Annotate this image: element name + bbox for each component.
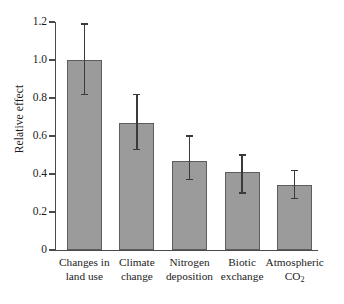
- y-tick-label: 0: [0, 244, 47, 256]
- y-tick-label: 0.4: [0, 168, 47, 180]
- error-bar-cap-upper: [291, 170, 298, 171]
- x-axis-category-label: AtmosphericCO2: [258, 256, 332, 284]
- error-bar-line: [136, 94, 137, 149]
- error-bar-line: [241, 155, 242, 193]
- x-axis-category-label-line: Nitrogen: [169, 256, 209, 268]
- error-bar-cap-upper: [186, 135, 193, 136]
- error-bar-cap-lower: [239, 192, 246, 193]
- y-tick-mark: [49, 211, 55, 212]
- y-tick-mark: [49, 21, 55, 22]
- error-bar-cap-lower: [133, 149, 140, 150]
- y-tick-label: 0.6: [0, 130, 47, 142]
- y-tick-mark: [49, 59, 55, 60]
- y-tick-mark: [49, 173, 55, 174]
- y-tick-mark: [49, 135, 55, 136]
- y-axis-line: [55, 22, 56, 251]
- y-tick-label: 0.2: [0, 206, 47, 218]
- error-bar-cap-lower: [81, 94, 88, 95]
- error-bar-cap-lower: [291, 198, 298, 199]
- error-bar-cap-upper: [81, 23, 88, 24]
- x-axis-line: [55, 250, 318, 251]
- x-axis-category-label-line: Biotic: [228, 256, 256, 268]
- y-tick-label: 0.8: [0, 92, 47, 104]
- error-bar-line: [84, 24, 85, 94]
- error-bar-cap-lower: [186, 179, 193, 180]
- y-tick-label: 1.0: [0, 54, 47, 66]
- bar-chart: Relative effect 1.21.00.80.60.40.20 Chan…: [0, 0, 344, 304]
- error-bar-line: [189, 136, 190, 180]
- error-bar-cap-upper: [133, 94, 140, 95]
- plot-area: 1.21.00.80.60.40.20 Changes inland useCl…: [0, 0, 344, 304]
- x-axis-category-label-line: Atmospheric: [266, 256, 324, 268]
- y-tick-mark: [49, 97, 55, 98]
- y-tick-mark: [49, 249, 55, 250]
- error-bar-cap-upper: [239, 154, 246, 155]
- x-axis-category-label-line: Climate: [119, 256, 155, 268]
- error-bar-line: [294, 170, 295, 199]
- y-tick-label: 1.2: [0, 16, 47, 28]
- x-axis-category-label-line: CO2: [258, 270, 332, 285]
